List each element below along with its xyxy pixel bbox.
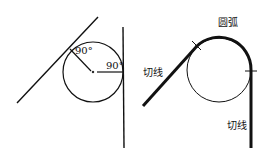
diagram-canvas: 90° 90° 圆弧 切线 切线 — [0, 0, 266, 160]
tangent-arc-diagram: 90° 90° 圆弧 切线 切线 — [0, 0, 266, 160]
arc-label: 圆弧 — [218, 16, 238, 28]
angle-label-1: 90° — [75, 45, 93, 56]
left-figure — [17, 17, 124, 148]
right-figure — [143, 37, 257, 148]
left-tangent-line-diagonal — [17, 17, 98, 103]
tangent-label-left: 切线 — [143, 66, 163, 78]
left-center-point — [92, 71, 94, 73]
right-arc — [196, 37, 251, 70]
left-tangent-line-vertical — [123, 27, 124, 148]
angle-label-2: 90° — [106, 60, 124, 71]
tangent-label-right: 切线 — [227, 119, 247, 131]
